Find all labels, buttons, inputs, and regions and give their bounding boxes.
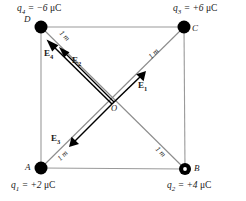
vector-subscript-E4: 4 [50, 53, 53, 60]
charge-unit-q3: μC [206, 3, 217, 13]
vertex-label-D: D [24, 15, 31, 24]
charge-unit-q4: μC [50, 3, 61, 13]
square-edge-bottom [41, 168, 185, 169]
vector-subscript-E1: 1 [144, 85, 147, 92]
vector-subscript-E3: 3 [57, 138, 60, 145]
charge-dot-D [35, 21, 48, 34]
vector-E2-arrow [47, 40, 113, 105]
charge-unit-q1: μC [44, 180, 55, 190]
vector-E1-shaft [112, 76, 141, 104]
charge-dot-A [35, 162, 48, 175]
electric-field-square-diagram: q4 = −6 μC q3 = +6 μC q1 = +2 μC q2 = +4… [0, 0, 246, 201]
charge-dot-C [178, 21, 191, 34]
charge-dot-B-center [183, 167, 187, 171]
charge-unit-q2: μC [200, 180, 211, 190]
vector-E3-arrow [69, 104, 112, 147]
vertex-label-C: C [192, 24, 198, 33]
vertex-label-A: A [25, 163, 31, 172]
vector-E2-shaft [53, 46, 113, 105]
charge-value-q3: = +6 [181, 3, 206, 13]
vector-label-E1: E1 [138, 81, 147, 92]
charge-label-q1: q1 = +2 μC [11, 181, 55, 193]
charge-value-q1: = +2 [19, 180, 44, 190]
vector-label-E2: E2 [72, 56, 81, 67]
diagram-canvas [0, 0, 246, 201]
vector-label-E3: E3 [51, 134, 60, 145]
vector-E3-shaft [74, 104, 112, 142]
charge-label-q3: q3 = +6 μC [173, 4, 217, 16]
charge-label-q2: q2 = +4 μC [167, 181, 211, 193]
center-point-label: O [111, 104, 117, 113]
square-edge-right [184, 27, 185, 169]
vector-subscript-E2: 2 [78, 60, 81, 67]
charge-value-q4: = −6 [25, 3, 50, 13]
vector-label-E4: E4 [44, 49, 53, 60]
field-vector-group [47, 40, 147, 148]
vertex-label-B: B [194, 164, 200, 173]
vector-E4-arrow [59, 47, 114, 102]
charge-value-q2: = +4 [175, 180, 200, 190]
vector-E4-shaft [62, 50, 114, 102]
